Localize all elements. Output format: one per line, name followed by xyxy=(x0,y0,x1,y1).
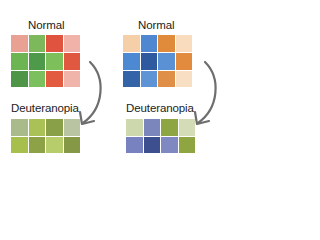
color-swatch xyxy=(179,119,196,136)
color-swatch xyxy=(179,137,196,154)
color-swatch xyxy=(144,119,161,136)
color-swatch xyxy=(161,137,178,154)
right-deuteranopia-grid xyxy=(126,119,195,153)
color-swatch xyxy=(144,137,161,154)
color-swatch xyxy=(126,119,143,136)
color-swatch xyxy=(161,119,178,136)
color-swatch xyxy=(126,137,143,154)
right-deuteranopia-label: Deuteranopia xyxy=(126,102,194,114)
